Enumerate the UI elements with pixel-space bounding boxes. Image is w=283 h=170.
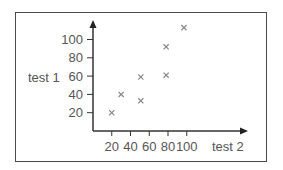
x-tick-label: 80 (161, 139, 175, 154)
x-marker-icon (164, 44, 169, 49)
x-tick-label: 20 (105, 139, 119, 154)
y-tick-label: 60 (69, 69, 83, 84)
x-tick-label: 100 (176, 139, 198, 154)
data-points (109, 25, 186, 115)
x-marker-icon (164, 73, 169, 78)
y-tick-label: 40 (69, 87, 83, 102)
x-marker-icon (138, 98, 143, 103)
x-marker-icon (138, 74, 143, 79)
x-axis-label: test 2 (212, 139, 244, 154)
y-tick-label: 20 (69, 105, 83, 120)
ticks: 2040608010020406080100 (61, 32, 197, 154)
y-axis-label: test 1 (28, 70, 60, 85)
y-tick-label: 80 (69, 50, 83, 65)
scatter-chart: 2040608010020406080100 test 2 test 1 (0, 0, 283, 170)
x-tick-label: 40 (123, 139, 137, 154)
x-marker-icon (109, 110, 114, 115)
x-marker-icon (119, 92, 124, 97)
y-tick-label: 100 (61, 32, 83, 47)
x-marker-icon (181, 25, 186, 30)
x-tick-label: 60 (142, 139, 156, 154)
